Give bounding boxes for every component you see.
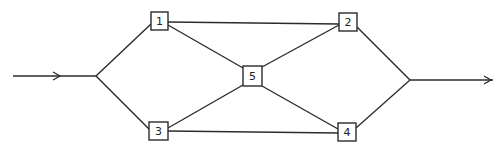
- node-2-label: 2: [345, 16, 352, 29]
- edge-2-output: [357, 27, 410, 80]
- node-1-label: 1: [156, 15, 163, 28]
- edge-1-2: [168, 22, 339, 24]
- node-3-label: 3: [155, 125, 162, 138]
- edge-3-5: [168, 85, 243, 128]
- edge-5-2: [262, 25, 339, 67]
- node-4: 4: [338, 123, 356, 141]
- edge-5-4: [262, 86, 338, 129]
- bridge-network-diagram: 1 2 3 4 5: [0, 0, 497, 148]
- edge-3-4: [168, 131, 338, 133]
- edge-4-output: [356, 80, 410, 128]
- node-5-label: 5: [249, 70, 256, 83]
- node-3: 3: [149, 122, 168, 140]
- edge-input-1: [96, 24, 151, 76]
- edge-1-5: [168, 25, 243, 68]
- node-5: 5: [243, 66, 262, 86]
- edge-input-3: [96, 76, 149, 129]
- node-1: 1: [151, 12, 168, 30]
- node-4-label: 4: [344, 126, 351, 139]
- node-2: 2: [339, 13, 357, 31]
